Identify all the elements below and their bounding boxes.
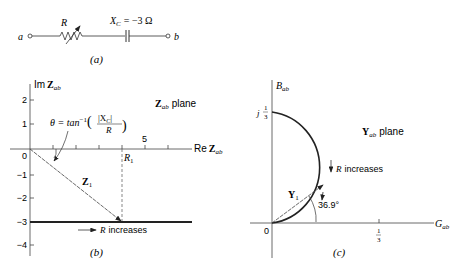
z1-label: Z1: [82, 176, 93, 189]
z-r-increases-label: Rincreases: [99, 225, 148, 235]
z-ytick-m1: −1: [17, 170, 27, 180]
z-ytick-m2: −2: [17, 193, 27, 203]
r1-label: R1: [123, 152, 134, 165]
angle-label: 36.9°: [318, 200, 340, 210]
y-origin: 0: [264, 226, 269, 236]
caption-c: (c): [333, 246, 346, 259]
capacitor-label: XC= −3 Ω: [109, 15, 153, 28]
g-third-num: 1: [377, 227, 381, 235]
y-locus-arrow: [322, 192, 323, 200]
variable-resistor: [60, 32, 82, 40]
theta-denominator: R: [105, 125, 112, 135]
svg-text:): ): [122, 118, 127, 134]
z-ytick-2: 2: [22, 95, 27, 105]
theta-formula: θ = tan−1(: [50, 114, 92, 130]
y-b-axis-label: Bab: [276, 80, 290, 93]
terminal-b-label: b: [174, 31, 179, 42]
z-ytick-1: 1: [22, 119, 27, 129]
z-xtick-5: 5: [142, 134, 147, 144]
theta-pointer: [54, 131, 68, 161]
y-plane-label: Yabplane: [362, 126, 404, 139]
z-plane-label: Zabplane: [155, 98, 197, 111]
circuit-diagram: a R b XC= −3 Ω (a): [18, 15, 179, 66]
theta-numerator: |XC|: [98, 113, 112, 124]
resistor-label: R: [60, 17, 67, 28]
z-y-axis-label: ImZab: [34, 79, 61, 92]
y-g-axis-label: Gab: [435, 218, 450, 231]
y-r-increases-label: Rincreases: [335, 164, 384, 174]
terminal-a-label: a: [18, 31, 23, 42]
z1-vector: [30, 149, 121, 221]
z-ytick-m3: −3: [17, 217, 27, 227]
z-ytick-0: 0: [22, 151, 27, 161]
j-third-den: 3: [264, 113, 268, 121]
z-plane-chart: 2 1 0 −1 −2 −3 −4 5 ImZab ReZab Zabplane…: [10, 79, 223, 259]
j-third-num: 1: [264, 104, 268, 112]
y1-label: Y1: [288, 189, 299, 202]
y-plane-chart: Bab Gab 0 j 1 3 1 3 Yabplane Rincreases …: [250, 80, 450, 259]
variable-resistor-arrow: [66, 26, 80, 44]
caption-b: (b): [90, 246, 103, 259]
g-third-den: 3: [377, 236, 381, 244]
z-x-axis-label: ReZab: [194, 143, 223, 156]
j-label: j: [256, 108, 260, 118]
y-semicircle-locus: [272, 112, 320, 223]
caption-a: (a): [90, 53, 103, 66]
terminal-a: [28, 34, 32, 38]
theta-arc: [54, 149, 56, 158]
terminal-b: [166, 34, 170, 38]
z-ytick-m4: −4: [17, 240, 27, 250]
